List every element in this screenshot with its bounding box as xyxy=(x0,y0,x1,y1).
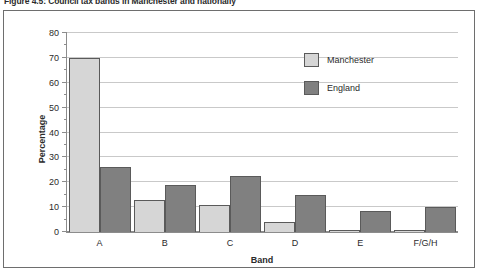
bar-manchester-a[interactable] xyxy=(69,58,100,232)
y-axis-tick-label: 10 xyxy=(49,202,59,212)
bar-group: F/G/H xyxy=(393,33,458,232)
legend-label: England xyxy=(327,83,360,93)
y-axis-title: Percentage xyxy=(37,115,47,164)
y-axis-tick-label: 60 xyxy=(49,78,59,88)
x-axis-tick-label: B xyxy=(132,238,197,248)
legend-item-manchester[interactable]: Manchester xyxy=(304,53,374,67)
y-axis-tick-label: 50 xyxy=(49,103,59,113)
bar-manchester-f-g-h[interactable] xyxy=(394,230,425,232)
figure-caption: Figure 4.5: Council tax bands in Manches… xyxy=(4,0,236,6)
plot-area: 01020304050607080 ABCDEF/G/H xyxy=(66,33,458,233)
y-axis-tick-label: 70 xyxy=(49,53,59,63)
bar-manchester-c[interactable] xyxy=(199,205,230,232)
bar-england-c[interactable] xyxy=(230,176,261,232)
x-axis-tick-label: D xyxy=(263,238,328,248)
chart-frame: Percentage 01020304050607080 ABCDEF/G/H … xyxy=(3,10,475,268)
bar-england-e[interactable] xyxy=(360,211,391,232)
x-axis-tick-label: E xyxy=(328,238,393,248)
x-axis-tick-label: A xyxy=(67,238,132,248)
bar-england-d[interactable] xyxy=(295,195,326,232)
legend-swatch-icon xyxy=(304,81,319,95)
x-axis-tick-label: F/G/H xyxy=(393,238,458,248)
bar-manchester-b[interactable] xyxy=(134,200,165,232)
y-axis-tick-label: 30 xyxy=(49,152,59,162)
bar-group: A xyxy=(67,33,132,232)
chart-legend: ManchesterEngland xyxy=(304,53,374,95)
y-axis-tick-label: 0 xyxy=(54,227,59,237)
x-axis-tick-label: C xyxy=(197,238,262,248)
bar-groups: ABCDEF/G/H xyxy=(67,33,458,232)
y-axis-tick-label: 40 xyxy=(49,128,59,138)
bar-group: C xyxy=(197,33,262,232)
bar-manchester-d[interactable] xyxy=(264,222,295,232)
x-axis-title: Band xyxy=(66,255,458,265)
bar-england-b[interactable] xyxy=(165,185,196,232)
legend-swatch-icon xyxy=(304,53,319,67)
bar-group: B xyxy=(132,33,197,232)
legend-item-england[interactable]: England xyxy=(304,81,374,95)
bar-england-f-g-h[interactable] xyxy=(425,207,456,232)
y-axis-tick-label: 80 xyxy=(49,28,59,38)
y-axis-tick-label: 20 xyxy=(49,177,59,187)
bar-manchester-e[interactable] xyxy=(329,230,360,232)
legend-label: Manchester xyxy=(327,55,374,65)
bar-england-a[interactable] xyxy=(100,167,131,232)
